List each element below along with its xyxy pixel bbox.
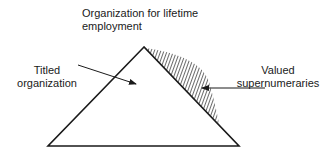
titled-organization-arrow bbox=[78, 65, 136, 84]
valued-label-line-2: supernumeraries bbox=[232, 77, 323, 90]
title-line-2: employment bbox=[82, 20, 198, 33]
lifetime-employment-diagram: Organization for lifetime employment Tit… bbox=[0, 0, 323, 164]
titled-organization-label: Titled organization bbox=[14, 64, 80, 90]
titled-label-line-2: organization bbox=[14, 77, 80, 90]
valued-label-line-1: Valued bbox=[232, 64, 323, 77]
title-line-1: Organization for lifetime bbox=[82, 7, 198, 20]
diagram-title: Organization for lifetime employment bbox=[82, 7, 198, 33]
titled-label-line-1: Titled bbox=[14, 64, 80, 77]
valued-supernumeraries-label: Valued supernumeraries bbox=[232, 64, 323, 90]
